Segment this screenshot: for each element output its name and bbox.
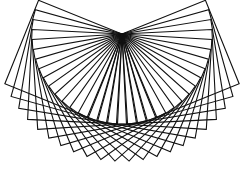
- squares-group: [5, 0, 239, 161]
- rotated-squares-heart: [0, 0, 240, 192]
